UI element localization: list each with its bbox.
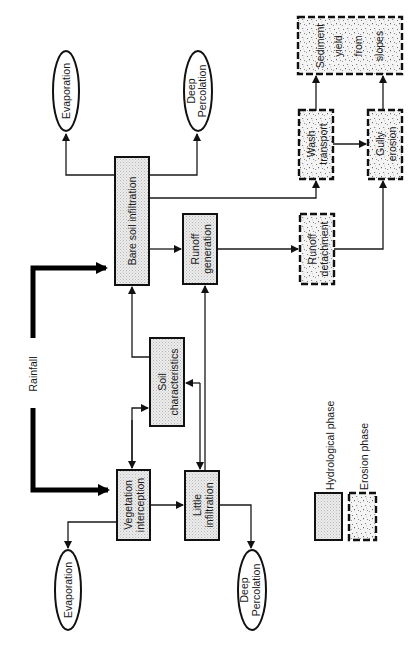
svg-text:detachment: detachment bbox=[318, 221, 330, 276]
svg-text:transport: transport bbox=[317, 123, 329, 165]
svg-text:Percolation: Percolation bbox=[196, 65, 208, 118]
svg-text:slopes: slopes bbox=[373, 31, 385, 61]
rainfall-input: Rainfall bbox=[27, 268, 108, 490]
svg-text:erosion: erosion bbox=[386, 127, 398, 162]
svg-text:Vegetation: Vegetation bbox=[122, 480, 134, 530]
svg-text:from: from bbox=[352, 35, 364, 56]
node-little-infiltration: Little infiltration bbox=[185, 471, 219, 540]
svg-text:Percolation: Percolation bbox=[250, 564, 262, 617]
legend-erosion: Erosion phase bbox=[349, 423, 376, 540]
svg-text:Evaporation: Evaporation bbox=[60, 63, 72, 119]
svg-text:generation: generation bbox=[201, 224, 213, 274]
node-gully-erosion: Gully erosion bbox=[368, 110, 402, 179]
svg-text:Deep: Deep bbox=[238, 577, 250, 602]
svg-text:Sediment: Sediment bbox=[314, 24, 326, 68]
svg-text:Evaporation: Evaporation bbox=[62, 562, 74, 618]
svg-text:Runoff: Runoff bbox=[306, 234, 318, 265]
rainfall-arrow-bare-soil bbox=[33, 268, 106, 338]
rainfall-arrow-vegetation bbox=[33, 408, 108, 490]
legend-hydrological-label: Hydrological phase bbox=[324, 401, 336, 490]
diagram-canvas: Rainfall bbox=[0, 0, 414, 653]
svg-text:Runoff: Runoff bbox=[189, 234, 201, 265]
svg-text:Little: Little bbox=[191, 494, 203, 516]
node-evaporation-top: Evaporation bbox=[53, 51, 79, 131]
svg-text:yield: yield bbox=[332, 35, 344, 57]
rainfall-label: Rainfall bbox=[27, 356, 39, 391]
node-soil-characteristics: Soil characteristics bbox=[150, 338, 184, 426]
node-wash-transport: Wash transport bbox=[299, 110, 333, 179]
node-vegetation-interception: Vegetation interception bbox=[117, 470, 150, 540]
legend: Hydrological phase Erosion phase bbox=[315, 401, 376, 540]
node-deep-percolation-bottom: Deep Percolation bbox=[238, 550, 266, 630]
legend-hydrological-swatch bbox=[315, 493, 342, 540]
svg-text:Soil: Soil bbox=[156, 373, 168, 391]
node-runoff-detachment: Runoff detachment bbox=[300, 214, 334, 284]
node-deep-percolation-top: Deep Percolation bbox=[184, 51, 212, 131]
legend-erosion-label: Erosion phase bbox=[358, 423, 370, 490]
svg-text:interception: interception bbox=[134, 478, 146, 532]
node-bare-soil-infiltration: Bare soil infiltration bbox=[115, 157, 149, 285]
svg-text:Gully: Gully bbox=[374, 131, 386, 156]
svg-text:Wash: Wash bbox=[305, 131, 317, 158]
svg-text:characteristics: characteristics bbox=[168, 348, 180, 415]
legend-erosion-swatch bbox=[349, 493, 376, 540]
svg-text:infiltration: infiltration bbox=[203, 482, 215, 527]
svg-text:Bare soil infiltration: Bare soil infiltration bbox=[126, 176, 138, 265]
legend-hydrological: Hydrological phase bbox=[315, 401, 342, 540]
node-sediment-yield: Sediment yield from slopes bbox=[298, 17, 402, 74]
node-evaporation-bottom: Evaporation bbox=[55, 550, 81, 630]
node-runoff-generation: Runoff generation bbox=[183, 214, 217, 284]
